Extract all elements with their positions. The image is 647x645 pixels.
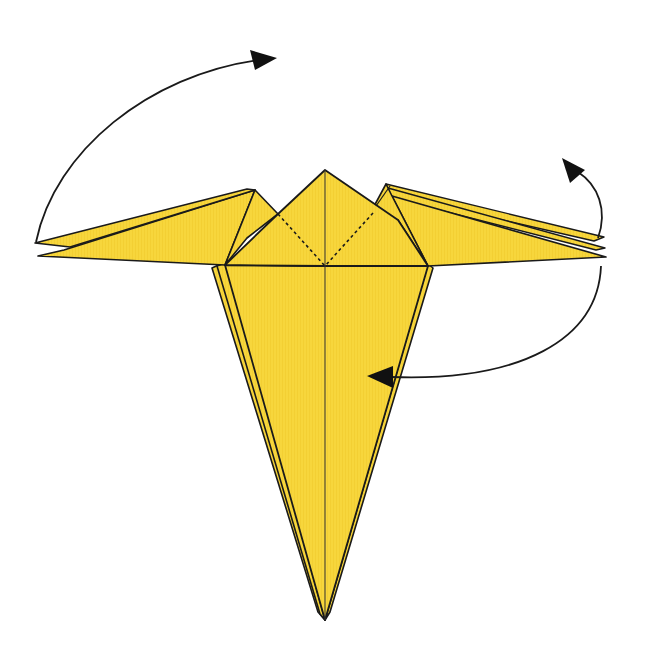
- body-point: [212, 262, 433, 620]
- origami-diagram: Origami folding step: [0, 0, 647, 645]
- arrowhead-icon: [562, 158, 585, 183]
- arrowhead-icon: [250, 50, 277, 70]
- arrow-right-wing-up: [562, 158, 602, 238]
